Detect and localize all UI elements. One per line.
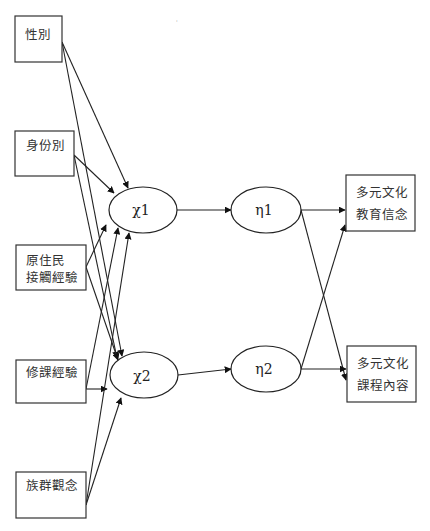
label-indigenous-contact-line2: 接觸經驗 (26, 270, 78, 285)
node-eta2[interactable]: η2 (231, 346, 301, 392)
node-eta1[interactable]: η1 (231, 187, 301, 233)
node-chi1[interactable]: χ1 (109, 187, 177, 233)
node-indigenous-contact[interactable]: 原住民 接觸經驗 (16, 245, 86, 290)
label-mc-belief-line2: 教育信念 (356, 207, 408, 222)
node-ethnic-concept[interactable]: 族群觀念 (16, 472, 86, 518)
label-mc-curriculum-line2: 課程內容 (357, 378, 409, 393)
label-ethnic-concept-line1: 族群觀念 (26, 478, 78, 493)
label-indigenous-contact-line1: 原住民 (26, 253, 65, 268)
label-gender-line1: 性別 (25, 27, 51, 42)
label-chi1: χ1 (132, 202, 149, 218)
label-eta1: η1 (255, 202, 272, 218)
label-course-experience-line1: 修課經驗 (26, 365, 78, 380)
label-mc-curriculum-line1: 多元文化 (357, 356, 409, 371)
edge-ethnic-concept-to-chi2 (86, 398, 121, 505)
node-course-experience[interactable]: 修課經驗 (16, 360, 86, 403)
label-eta2: η2 (255, 361, 272, 377)
stray-mark: ˌ (176, 15, 178, 22)
edge-chi2-to-eta2 (178, 369, 231, 375)
edges (62, 42, 346, 505)
node-mc-belief[interactable]: 多元文化 教育信念 (346, 175, 415, 231)
path-diagram: ˌ 性別 身份別 原住民 接觸經驗 修課經驗 族群觀念 χ1 χ2 η1 η2 (0, 0, 430, 531)
node-mc-curriculum[interactable]: 多元文化 課程內容 (347, 346, 416, 402)
node-chi2[interactable]: χ2 (110, 352, 178, 398)
box-mc-belief (346, 175, 415, 231)
label-mc-belief-line1: 多元文化 (356, 185, 408, 200)
label-chi2: χ2 (133, 368, 150, 384)
node-identity[interactable]: 身份別 (15, 131, 74, 176)
label-identity-line1: 身份別 (26, 138, 65, 153)
box-mc-curriculum (347, 346, 416, 402)
edge-eta2-to-mc-belief (301, 225, 345, 369)
edge-identity-to-chi1 (74, 155, 114, 193)
edge-indigenous-contact-to-chi2 (86, 267, 118, 360)
node-gender[interactable]: 性別 (15, 16, 62, 62)
